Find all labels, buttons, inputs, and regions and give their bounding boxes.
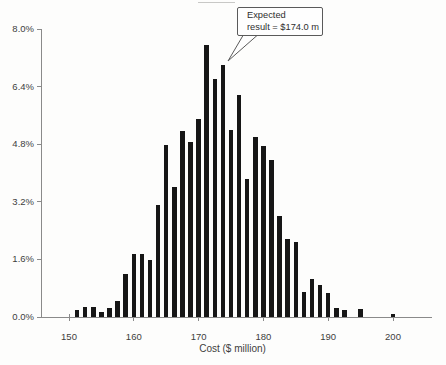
scan-artifact-line [198, 2, 235, 3]
y-tick-label: 1.6% [2, 253, 34, 265]
x-tick-mark [69, 314, 70, 321]
y-tick-label: 6.4% [2, 81, 34, 93]
y-tick-mark [37, 86, 41, 87]
x-tick-label: 150 [53, 331, 85, 343]
x-axis [41, 317, 432, 318]
x-tick-label: 200 [377, 331, 409, 343]
histogram-bar [140, 254, 145, 317]
histogram-bar [269, 160, 274, 317]
expected-result-callout: Expected result = $174.0 m [237, 7, 323, 36]
y-tick-mark [37, 259, 41, 260]
histogram-bar [318, 285, 323, 317]
histogram-bar [261, 146, 266, 317]
y-tick-mark [37, 29, 41, 30]
histogram-bar [180, 131, 185, 317]
histogram-bar [132, 254, 137, 317]
histogram-bar [188, 142, 193, 317]
histogram-bar [221, 65, 226, 317]
y-tick-mark [37, 144, 41, 145]
histogram-bar [229, 130, 234, 317]
histogram-bar [91, 307, 96, 317]
histogram-bar [164, 145, 169, 317]
histogram-bar [310, 279, 315, 317]
histogram-bar [237, 95, 242, 317]
x-tick-label: 170 [183, 331, 215, 343]
x-tick-label: 160 [118, 331, 150, 343]
histogram-bar [277, 216, 282, 318]
histogram-bar [358, 309, 363, 317]
histogram-bar [123, 274, 128, 317]
histogram-bar [172, 187, 177, 317]
histogram-bar [75, 310, 80, 317]
histogram-bar [156, 205, 161, 317]
x-tick-label: 190 [312, 331, 344, 343]
histogram-bar [107, 308, 112, 317]
histogram-bar [342, 310, 347, 317]
y-tick-label: 0.0% [2, 311, 34, 323]
y-tick-label: 3.2% [2, 196, 34, 208]
y-tick-mark [37, 317, 41, 318]
y-tick-label: 8.0% [2, 23, 34, 35]
histogram-bar [391, 314, 396, 317]
histogram-bar [204, 45, 209, 317]
histogram-bar [99, 312, 104, 317]
y-axis [41, 29, 42, 317]
histogram-bar [302, 292, 307, 317]
cost-histogram-figure: 0.0%1.6%3.2%4.8%6.4%8.0% 150160170180190… [0, 0, 446, 365]
callout-text-line1: Expected [247, 10, 322, 22]
histogram-bar [253, 137, 258, 317]
histogram-bar [83, 307, 88, 317]
y-tick-label: 4.8% [2, 138, 34, 150]
histogram-bar [213, 79, 218, 317]
histogram-bar [285, 239, 290, 317]
x-tick-label: 180 [247, 331, 279, 343]
callout-text-line2: result = $174.0 m [247, 22, 322, 34]
histogram-bar [196, 119, 201, 317]
x-axis-title: Cost ($ million) [160, 343, 305, 354]
y-tick-mark [37, 201, 41, 202]
histogram-bar [115, 301, 120, 317]
histogram-bar [148, 260, 153, 317]
histogram-bar [326, 293, 331, 318]
histogram-bar [245, 179, 250, 317]
histogram-bar [294, 242, 299, 317]
histogram-bar [334, 308, 339, 317]
